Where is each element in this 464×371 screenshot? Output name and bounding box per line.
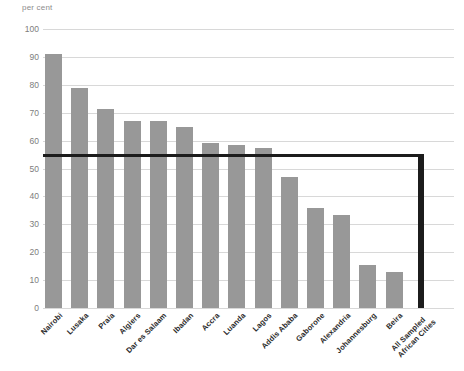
y-tick-80: 80	[5, 80, 39, 90]
y-tick-30: 30	[5, 219, 39, 229]
y-tick-0: 0	[5, 303, 39, 313]
y-tick-100: 100	[5, 24, 39, 34]
x-label-ibadan: Ibadan	[171, 311, 195, 335]
y-tick-60: 60	[5, 136, 39, 146]
bar-alexandria	[333, 215, 350, 308]
x-label-algiers: Algiers	[117, 311, 142, 336]
bar-luanda	[228, 145, 245, 308]
y-tick-90: 90	[5, 52, 39, 62]
bar-lagos	[255, 148, 272, 308]
x-label-lusaka: Lusaka	[65, 311, 90, 336]
bar-accra	[202, 143, 219, 308]
bar-gaborone	[307, 208, 324, 308]
bar-lusaka	[71, 88, 88, 308]
bar-beira	[386, 272, 403, 308]
x-axis-category-labels: NairobiLusakaPraiaAlgiersDar es SalaamIb…	[43, 308, 454, 371]
y-tick-50: 50	[5, 164, 39, 174]
y-tick-10: 10	[5, 275, 39, 285]
x-label-lagos: Lagos	[251, 311, 274, 334]
x-label-beira: Beira	[384, 311, 404, 331]
bar-algiers	[124, 121, 141, 308]
bar-praia	[97, 109, 114, 308]
gridline-80	[43, 85, 454, 86]
plot-area	[43, 29, 454, 308]
bar-addis-ababa	[281, 177, 298, 308]
y-tick-20: 20	[5, 247, 39, 257]
gridline-100	[43, 29, 454, 30]
bar-johannesburg	[359, 265, 376, 308]
x-label-luanda: Luanda	[221, 311, 247, 337]
y-tick-40: 40	[5, 191, 39, 201]
x-label-praia: Praia	[96, 311, 116, 331]
x-label-accra: Accra	[199, 311, 221, 333]
y-axis-unit-label: per cent	[22, 3, 53, 12]
bar-chart: per cent 100 90 80 70 60 50 40 30 20 10 …	[0, 0, 464, 371]
bar-nairobi	[45, 54, 62, 308]
bar-total	[418, 155, 424, 308]
y-axis-tick-labels: 100 90 80 70 60 50 40 30 20 10 0	[3, 29, 39, 308]
reference-line	[43, 154, 424, 157]
y-tick-70: 70	[5, 108, 39, 118]
bar-dar-es-salaam	[150, 121, 167, 308]
x-label-nairobi: Nairobi	[39, 311, 64, 336]
gridline-90	[43, 57, 454, 58]
